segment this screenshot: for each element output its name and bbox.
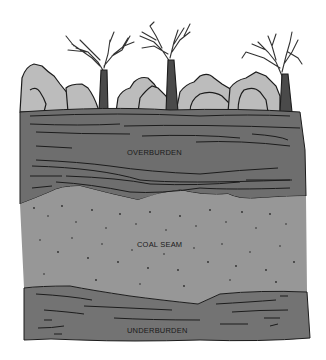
coal-seam-label: COAL SEAM xyxy=(137,240,182,249)
coal-seam-cross-section-diagram: OVERBURDEN COAL SEAM UNDERBURDEN xyxy=(0,0,326,360)
overburden-label: OVERBURDEN xyxy=(127,148,182,157)
shrubs xyxy=(20,64,280,112)
underburden-label: UNDERBURDEN xyxy=(127,326,188,335)
